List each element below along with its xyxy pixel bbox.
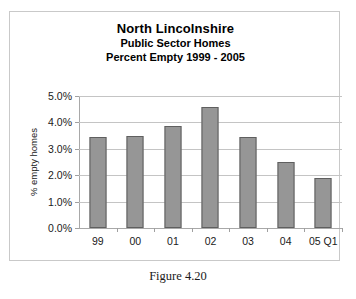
x-axis-tick-label: 99 <box>92 235 104 247</box>
bar[interactable] <box>164 126 181 228</box>
x-axis-line <box>79 228 343 229</box>
bar-slot <box>154 96 192 228</box>
x-axis-tick-label: 04 <box>280 235 292 247</box>
y-axis-tick-label: 1.0% <box>48 196 72 208</box>
y-axis-tick-label: 0.0% <box>48 222 72 234</box>
chart-frame: North Lincolnshire Public Sector Homes P… <box>9 11 340 261</box>
bar-slot <box>117 96 155 228</box>
chart-subtitle-2: Percent Empty 1999 - 2005 <box>10 50 341 64</box>
y-axis-tick-label: 3.0% <box>48 143 72 155</box>
x-axis-tick <box>267 228 268 232</box>
y-axis-tick-label: 2.0% <box>48 169 72 181</box>
bar[interactable] <box>202 107 219 228</box>
chart-title-block: North Lincolnshire Public Sector Homes P… <box>10 21 341 64</box>
bar-slot <box>229 96 267 228</box>
bar-slot <box>79 96 117 228</box>
y-axis-tick <box>75 228 79 229</box>
x-axis-tick <box>304 228 305 232</box>
y-axis-title: % empty homes <box>28 128 39 196</box>
bar[interactable] <box>240 137 257 228</box>
bar-slot <box>267 96 305 228</box>
chart-subtitle-1: Public Sector Homes <box>10 36 341 50</box>
bar[interactable] <box>127 136 144 228</box>
x-axis-tick <box>117 228 118 232</box>
bar[interactable] <box>277 162 294 228</box>
x-axis-tick <box>342 228 343 232</box>
figure-caption: Figure 4.20 <box>0 269 356 284</box>
bar-slot <box>192 96 230 228</box>
bar[interactable] <box>315 178 332 228</box>
x-axis-tick-label: 05 Q1 <box>309 235 338 247</box>
x-axis-tick-label: 03 <box>242 235 254 247</box>
x-axis-tick <box>192 228 193 232</box>
x-axis-tick <box>154 228 155 232</box>
figure-container: North Lincolnshire Public Sector Homes P… <box>0 0 356 299</box>
x-axis-tick-label: 01 <box>167 235 179 247</box>
bar[interactable] <box>89 137 106 228</box>
bar-slot <box>304 96 342 228</box>
plot-area: 0.0%1.0%2.0%3.0%4.0%5.0% <box>79 96 342 228</box>
x-axis-tick-label: 02 <box>205 235 217 247</box>
chart-title: North Lincolnshire <box>10 21 341 36</box>
y-axis-tick-label: 5.0% <box>48 90 72 102</box>
x-axis-tick-label: 00 <box>130 235 142 247</box>
x-axis-tick <box>229 228 230 232</box>
y-axis-tick-label: 4.0% <box>48 116 72 128</box>
